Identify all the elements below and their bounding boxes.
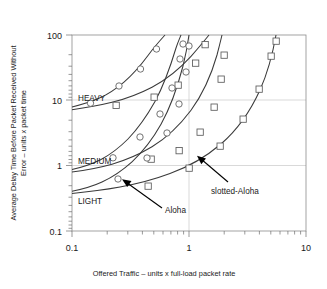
x-tick-label-1: 1 (186, 243, 191, 253)
annotation-label-aloha: Aloha (165, 206, 186, 215)
x-tick-label-10: 10 (301, 243, 311, 253)
y-axis-title-line1: Average Delay Time Before Packet Receive… (9, 46, 18, 221)
y-tick-label-10: 10 (52, 96, 62, 106)
y-tick-label-100: 100 (47, 31, 62, 41)
x-tick-label-0.1: 0.1 (66, 243, 79, 253)
y-tick-label-0.1: 0.1 (49, 227, 62, 237)
group-label-heavy: HEAVY (78, 94, 106, 103)
y-tick-label-1: 1 (57, 161, 62, 171)
x-axis-title: Offered Traffic – units x full-load pack… (93, 269, 236, 278)
aloha-delay-chart: 100 10 1 0.1 0.1 1 10 Offered Traffic – … (0, 0, 327, 289)
group-label-medium: MEDIUM (78, 157, 111, 166)
group-label-light: LIGHT (78, 197, 102, 206)
annotation-label-slotted-aloha: slotted-Aloha (211, 187, 259, 196)
y-axis-title-line2: Error – units x packet time (19, 90, 28, 176)
